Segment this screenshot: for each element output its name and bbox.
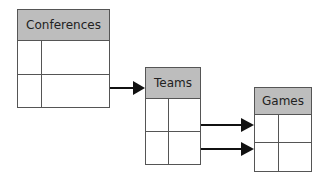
arrow-conferences-to-teams (110, 81, 145, 95)
arrow-teams-to-games-1 (201, 118, 254, 132)
arrow-teams-to-games-2 (201, 142, 254, 156)
relationship-arrows (0, 0, 327, 182)
